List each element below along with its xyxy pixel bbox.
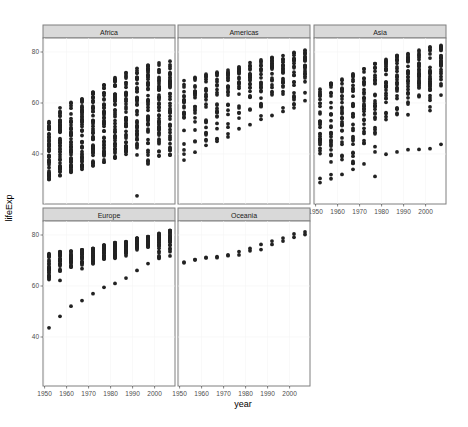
facet-panel-africa: Africa406080 [32, 25, 175, 204]
plot-area [43, 38, 175, 204]
x-tick-label: 1970 [81, 390, 96, 397]
x-tick-label: 1960 [330, 208, 345, 215]
y-tick-label: 80 [32, 231, 40, 238]
x-tick-label: 1960 [59, 390, 74, 397]
x-tick-label: 1990 [125, 390, 140, 397]
facet-strip-label: Europe [98, 212, 121, 220]
x-tick-label: 1980 [238, 390, 253, 397]
x-tick-label: 2000 [282, 390, 297, 397]
x-tick-label: 1970 [352, 208, 367, 215]
plot-area [178, 221, 310, 386]
x-tick-label: 1970 [216, 390, 231, 397]
facet-panel-asia: Asia195019601970198019902000 [308, 25, 446, 215]
y-tick-label: 40 [32, 150, 40, 157]
facet-panel-europe: Europe406080195019601970198019902000 [32, 208, 175, 397]
facet-strip-label: Americas [229, 29, 259, 36]
y-tick-label: 80 [32, 48, 40, 55]
y-axis-title: lifeExp [4, 194, 14, 221]
plot-area [314, 38, 446, 204]
plot-area [43, 221, 175, 386]
x-tick-label: 1990 [396, 208, 411, 215]
x-tick-label: 1990 [260, 390, 275, 397]
y-tick-label: 60 [32, 282, 40, 289]
y-tick-label: 40 [32, 333, 40, 340]
x-tick-label: 2000 [147, 390, 162, 397]
facet-strip-label: Asia [373, 29, 387, 36]
faceted-scatter-chart: Africa406080AmericasAsia1950196019701980… [0, 0, 468, 427]
facet-panel-americas: Americas [178, 25, 310, 204]
x-tick-label: 2000 [418, 208, 433, 215]
facet-strip-label: Oceania [231, 212, 257, 219]
plot-area [178, 38, 310, 204]
x-tick-label: 1980 [374, 208, 389, 215]
x-tick-label: 1950 [308, 208, 323, 215]
x-tick-label: 1960 [194, 390, 209, 397]
x-axis-title: year [234, 399, 252, 409]
facet-panel-oceania: Oceania195019601970198019902000 [172, 208, 310, 397]
facet-strip-label: Africa [100, 29, 118, 36]
y-tick-label: 60 [32, 99, 40, 106]
x-tick-label: 1950 [37, 390, 52, 397]
x-tick-label: 1980 [103, 390, 118, 397]
x-tick-label: 1950 [172, 390, 187, 397]
